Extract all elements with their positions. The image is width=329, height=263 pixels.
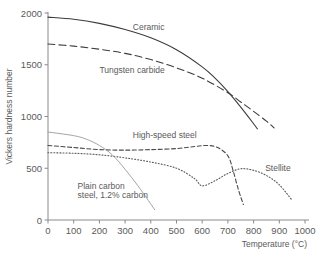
x-tick-label: 400 <box>143 225 159 236</box>
series-label-ceramic: Ceramic <box>133 22 165 32</box>
x-tick-label: 200 <box>91 225 107 236</box>
x-tick-label: 600 <box>194 225 210 236</box>
x-tick-label: 900 <box>271 225 287 236</box>
axis-titles: Temperature (°C)Vickers hardness number <box>4 68 307 249</box>
x-tick-label: 700 <box>220 225 236 236</box>
curve-tungsten-carbide <box>48 44 274 128</box>
y-tick-label: 0 <box>37 215 42 226</box>
axes: 0500100015002000010020030040050060070080… <box>21 8 316 236</box>
chart-container: 0500100015002000010020030040050060070080… <box>0 0 329 263</box>
y-axis-title: Vickers hardness number <box>4 68 14 164</box>
x-tick-label: 1000 <box>294 225 315 236</box>
x-tick-label: 800 <box>246 225 262 236</box>
series-label-plain-carbon-line2: steel, 1.2% carbon <box>78 190 149 200</box>
x-tick-label: 300 <box>117 225 133 236</box>
y-tick-label: 1000 <box>21 111 42 122</box>
y-tick-label: 1500 <box>21 59 42 70</box>
hardness-vs-temperature-chart: 0500100015002000010020030040050060070080… <box>0 0 329 263</box>
y-tick-label: 500 <box>26 163 42 174</box>
series-label-high-speed-steel: High-speed steel <box>133 130 197 140</box>
x-tick-label: 500 <box>169 225 185 236</box>
series-labels: CeramicTungsten carbideHigh-speed steelS… <box>78 22 291 200</box>
x-axis-title: Temperature (°C) <box>242 239 307 249</box>
x-tick-label: 0 <box>45 225 50 236</box>
series-label-stellite: Stellite <box>265 163 291 173</box>
y-tick-label: 2000 <box>21 8 42 19</box>
series-label-tungsten-carbide: Tungsten carbide <box>99 65 165 75</box>
x-tick-label: 100 <box>66 225 82 236</box>
